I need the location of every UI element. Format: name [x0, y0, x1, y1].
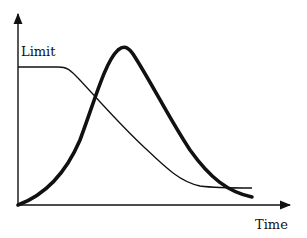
limit-curve — [18, 67, 252, 188]
limit-label: Limit — [21, 44, 56, 59]
response-curve — [18, 47, 252, 205]
time-label: Time — [255, 217, 288, 232]
diagram: Limit Time — [0, 0, 307, 238]
